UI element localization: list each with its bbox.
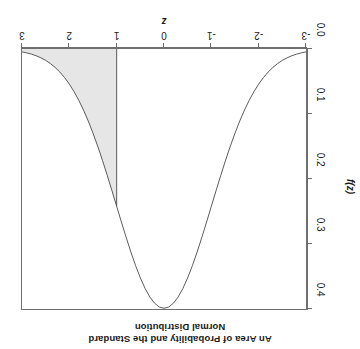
y-tick-label: 0.0 <box>315 23 326 37</box>
y-tick-label: 0.2 <box>315 153 326 167</box>
x-tick <box>21 43 22 48</box>
plot-area <box>21 48 307 310</box>
x-tick-label: -1 <box>196 30 226 41</box>
y-tick-label: 0.4 <box>315 283 326 297</box>
x-tick <box>116 43 117 48</box>
chart-title-line-2: Normal Distribution <box>0 321 360 333</box>
x-tick <box>68 43 69 48</box>
x-tick-label: 1 <box>102 30 132 41</box>
x-tick <box>258 43 259 48</box>
y-tick <box>307 308 312 309</box>
y-axis-title: f(z) <box>345 179 356 194</box>
y-tick <box>307 243 312 244</box>
y-tick <box>307 48 312 49</box>
y-axis-rule <box>307 48 308 310</box>
normal-density-curve <box>22 52 306 308</box>
rotated-figure-container: An Area of Probability and the Standard … <box>0 0 360 349</box>
x-axis-title: z <box>21 16 307 27</box>
normal-distribution-chart: An Area of Probability and the Standard … <box>0 0 360 349</box>
x-tick <box>163 43 164 48</box>
y-tick <box>307 113 312 114</box>
chart-title: An Area of Probability and the Standard … <box>0 321 360 345</box>
y-tick <box>307 178 312 179</box>
x-tick <box>210 43 211 48</box>
x-tick-label: 3 <box>7 30 37 41</box>
shaded-area-right-tail <box>22 49 117 206</box>
x-tick <box>305 43 306 48</box>
y-tick-label: 0.3 <box>315 218 326 232</box>
x-tick-label: 0 <box>149 30 179 41</box>
x-axis-rule <box>21 47 307 48</box>
chart-title-line-1: An Area of Probability and the Standard <box>0 333 360 345</box>
distribution-plot-svg <box>22 49 306 309</box>
x-tick-label: 2 <box>54 30 84 41</box>
x-tick-label: -2 <box>244 30 274 41</box>
y-tick-label: 0.1 <box>315 88 326 102</box>
y-axis: 0.00.10.20.30.4 <box>307 48 337 310</box>
